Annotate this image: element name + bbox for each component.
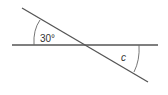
angle-label-c: c (121, 52, 126, 63)
angle-arc-c (134, 45, 139, 72)
angle-diagram: 30° c (0, 0, 168, 95)
angle-label-30: 30° (40, 33, 55, 44)
